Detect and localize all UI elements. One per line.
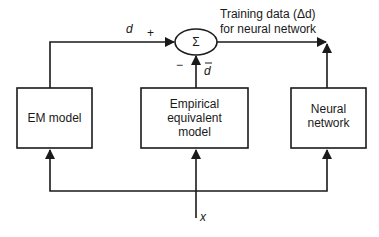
d-label: d [126,22,133,36]
x-bus-right [196,150,327,191]
em-model-label: EM model [27,111,81,125]
minus-sign: − [176,58,183,72]
block-diagram: EM model Empirical equivalent model Neur… [0,0,379,237]
empirical-model-label-3: model [178,125,211,139]
neural-network-label-2: network [307,116,350,130]
x-bus-left [50,150,196,191]
neural-network-label-1: Neural [311,102,346,116]
d-bar-label: d [204,64,211,78]
plus-sign: + [147,26,154,40]
empirical-model-label-1: Empirical [170,97,219,111]
training-data-label-1: Training data (Δd) [220,7,316,21]
d-signal-line [50,42,174,88]
empirical-model-label-2: equivalent [167,111,222,125]
training-data-label-2: for neural network [220,22,317,36]
sigma-symbol: Σ [192,35,199,49]
x-label: x [199,210,207,224]
